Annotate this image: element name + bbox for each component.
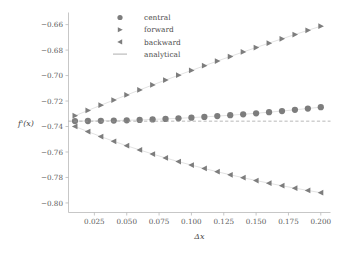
data-point-marker	[188, 162, 194, 168]
x-axis-title: Δx	[193, 232, 205, 241]
data-point-marker	[162, 155, 168, 161]
x-tick-label: 0.175	[278, 217, 299, 226]
data-point-marker	[227, 112, 233, 118]
chart-legend: centralforwardbackwardanalytical	[113, 13, 181, 59]
y-tick-label: −0.74	[41, 122, 63, 131]
axes-spines	[69, 13, 331, 213]
data-point-marker	[227, 172, 233, 178]
data-point-marker	[163, 77, 169, 83]
data-point-marker	[201, 166, 207, 172]
data-point-marker	[318, 190, 324, 196]
x-tick-marks	[94, 213, 320, 216]
y-tick-label: −0.80	[41, 199, 63, 208]
chart-canvas: −0.66−0.68−0.70−0.72−0.74−0.76−0.78−0.80…	[0, 0, 348, 256]
data-point-marker	[240, 111, 246, 117]
legend-marker-central	[117, 15, 122, 20]
figure-container: −0.66−0.68−0.70−0.72−0.74−0.76−0.78−0.80…	[0, 0, 348, 256]
data-point-marker	[149, 116, 155, 122]
data-series-layer	[69, 23, 331, 195]
legend-label-forward: forward	[144, 25, 174, 34]
data-point-marker	[150, 82, 156, 88]
data-point-marker	[175, 159, 181, 165]
y-tick-label: −0.68	[41, 46, 63, 55]
data-point-marker	[111, 117, 117, 123]
data-point-marker	[137, 147, 143, 153]
data-point-marker	[137, 87, 143, 93]
data-point-marker	[240, 175, 246, 181]
y-tick-label: −0.70	[41, 71, 63, 80]
data-point-marker	[137, 117, 143, 123]
data-point-marker	[318, 104, 324, 110]
data-point-marker	[85, 129, 91, 135]
y-tick-label: −0.76	[41, 148, 63, 157]
data-point-marker	[176, 72, 182, 78]
x-tick-label: 0.100	[181, 217, 202, 226]
data-point-marker	[305, 105, 311, 111]
data-point-marker	[279, 108, 285, 114]
data-point-marker	[241, 49, 247, 55]
data-point-marker	[175, 115, 181, 121]
legend-marker-backward	[117, 39, 122, 44]
x-tick-label: 0.050	[116, 217, 137, 226]
data-point-marker	[189, 68, 195, 74]
data-point-marker	[279, 36, 285, 42]
data-point-marker	[202, 63, 208, 69]
legend-label-central: central	[144, 13, 171, 22]
data-point-marker	[292, 32, 298, 38]
x-tick-label: 0.150	[246, 217, 267, 226]
y-tick-labels: −0.66−0.68−0.70−0.72−0.74−0.76−0.78−0.80	[41, 20, 63, 207]
data-point-marker	[72, 124, 78, 130]
x-tick-label: 0.025	[84, 217, 105, 226]
data-point-marker	[253, 110, 259, 116]
x-tick-label: 0.075	[149, 217, 170, 226]
data-point-marker	[98, 102, 104, 108]
data-point-marker	[305, 27, 311, 33]
legend-label-backward: backward	[144, 38, 181, 47]
x-tick-labels: 0.0250.0500.0750.1000.1250.1500.1750.200	[84, 217, 331, 226]
series-forward	[72, 23, 323, 118]
x-tick-label: 0.200	[311, 217, 332, 226]
data-point-marker	[292, 107, 298, 113]
y-tick-label: −0.78	[41, 173, 63, 182]
data-point-marker	[85, 108, 91, 114]
y-axis-title: f'(x)	[17, 119, 34, 128]
data-point-marker	[201, 114, 207, 120]
data-point-marker	[267, 40, 273, 46]
data-point-marker	[292, 185, 298, 191]
data-point-marker	[215, 58, 221, 64]
data-point-marker	[149, 151, 155, 157]
data-point-marker	[124, 117, 130, 123]
legend-label-analytical: analytical	[144, 50, 181, 59]
legend-marker-forward	[118, 27, 123, 32]
data-point-marker	[253, 178, 259, 184]
data-point-marker	[266, 109, 272, 115]
data-point-marker	[98, 134, 104, 140]
data-point-marker	[214, 169, 220, 175]
data-point-marker	[111, 138, 117, 144]
data-point-marker	[266, 180, 272, 186]
x-tick-label: 0.125	[213, 217, 234, 226]
data-point-marker	[254, 45, 260, 51]
y-tick-label: −0.66	[41, 20, 63, 29]
data-point-marker	[214, 113, 220, 119]
data-point-marker	[305, 188, 311, 194]
y-tick-marks	[66, 25, 69, 203]
data-point-marker	[72, 113, 78, 119]
data-point-marker	[124, 92, 130, 98]
series-connector-line	[75, 126, 321, 192]
y-tick-label: −0.72	[41, 97, 63, 106]
data-point-marker	[188, 115, 194, 121]
data-point-marker	[279, 183, 285, 189]
data-point-marker	[124, 143, 130, 149]
series-backward	[72, 124, 323, 196]
data-point-marker	[228, 54, 234, 60]
data-point-marker	[318, 23, 324, 29]
data-point-marker	[111, 97, 117, 103]
